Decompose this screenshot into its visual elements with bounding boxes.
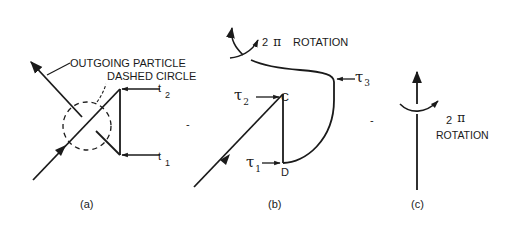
dashed-circle xyxy=(63,102,111,150)
panel-b-caption: (b) xyxy=(268,198,281,210)
diagram-canvas: t2 t1 OUTGOING PARTICLE DASHED CIRCLE (a… xyxy=(0,0,511,228)
panel-a: t2 t1 OUTGOING PARTICLE DASHED CIRCLE (a… xyxy=(31,57,196,210)
rotation-word-c: ROTATION xyxy=(436,129,489,141)
incoming-particle-line xyxy=(33,89,120,180)
rotation-label-b: 2πROTATION xyxy=(262,35,348,49)
panel-c: 2π ROTATION (c) xyxy=(400,72,489,210)
panel-c-caption: (c) xyxy=(411,198,424,210)
separator-dash-1: - xyxy=(186,118,190,130)
rotation-arc-icon-c xyxy=(400,101,438,111)
t2-label: t2 xyxy=(158,82,170,100)
outgoing-particle-line-lower xyxy=(96,131,120,155)
outgoing-label-leader xyxy=(47,63,70,75)
tau1-label: τ1 xyxy=(246,153,261,174)
worldline-curve xyxy=(251,60,334,163)
dashed-circle-label-leader xyxy=(97,84,106,102)
point-d-label: D xyxy=(281,166,289,178)
tau2-label: τ2 xyxy=(234,86,249,107)
outgoing-particle-label: OUTGOING PARTICLE xyxy=(70,57,186,69)
dashed-circle-label: DASHED CIRCLE xyxy=(107,70,196,82)
t1-label: t1 xyxy=(158,150,170,168)
separator-dash-2: - xyxy=(370,114,374,126)
panel-a-caption: (a) xyxy=(80,198,93,210)
point-c-label: C xyxy=(281,91,289,103)
panel-b: 2πROTATION τ3 τ2 C τ1 D (b) xyxy=(194,28,370,210)
tau3-label: τ3 xyxy=(355,68,370,88)
rotation-arrow-up-icon xyxy=(232,28,243,55)
rotation-number-c: 2π xyxy=(446,111,465,126)
incoming-line-to-c xyxy=(194,94,283,187)
